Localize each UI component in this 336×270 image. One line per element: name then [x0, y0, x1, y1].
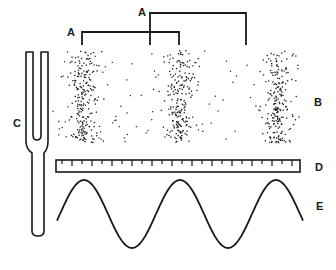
- label-compressions-b: B: [314, 97, 322, 108]
- diagram-canvas: [0, 0, 336, 270]
- label-wave-e: E: [316, 201, 323, 212]
- label-ruler-d: D: [315, 162, 323, 173]
- ruler-scale: [56, 160, 300, 172]
- sound-wave-diagram: A A B C D E: [0, 0, 336, 270]
- air-particles-compressions: [53, 50, 300, 143]
- label-wavelength-a-upper: A: [138, 7, 146, 18]
- label-wavelength-a-lower: A: [67, 27, 75, 38]
- label-tuning-fork-c: C: [13, 118, 21, 129]
- sine-wave: [57, 180, 303, 248]
- wavelength-brackets: [82, 13, 246, 45]
- tuning-fork-icon: [26, 52, 48, 236]
